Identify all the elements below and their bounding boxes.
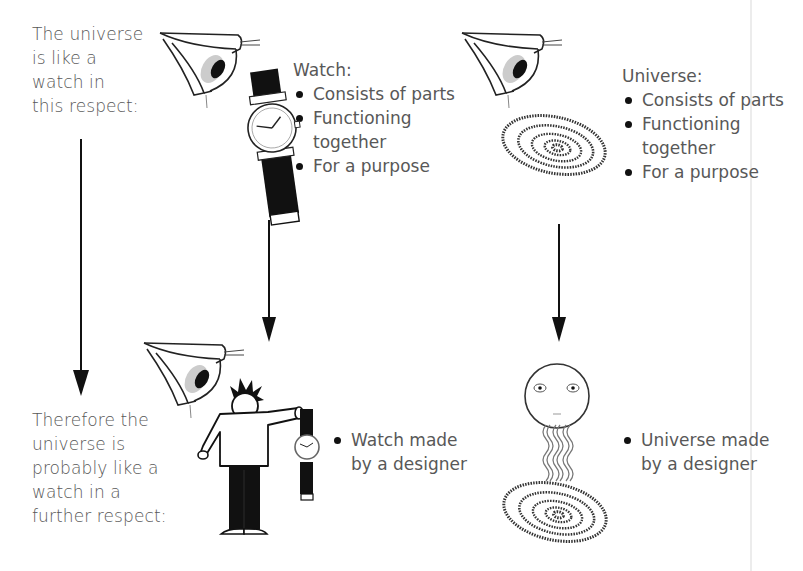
wristwatch-icon <box>240 67 313 227</box>
eye-icon <box>462 33 562 108</box>
down-arrow-icon <box>73 139 89 396</box>
spiral-galaxy-icon <box>498 474 611 550</box>
spiral-galaxy-icon <box>497 107 610 183</box>
eye-icon <box>160 33 260 108</box>
down-arrow-icon <box>262 220 276 342</box>
eye-icon <box>144 343 244 418</box>
person-holding-watch-icon <box>198 378 319 534</box>
down-arrow-icon <box>552 224 566 342</box>
illustration-layer <box>0 0 803 571</box>
designer-face-icon <box>525 364 589 481</box>
